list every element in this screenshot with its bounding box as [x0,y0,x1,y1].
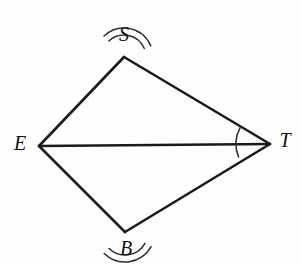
vertex-label-S: S [119,23,129,45]
angle-arc-T [236,128,240,157]
vertex-label-B: B [120,237,132,259]
angle-mark-T [236,128,240,157]
geometry-figure: S E T B [0,0,302,266]
edge-EB [39,146,125,232]
edge-ST [124,57,270,144]
vertex-labels: S E T B [13,23,293,259]
edge-BT [125,144,270,232]
figure-canvas: S E T B [0,0,302,266]
edge-SE [39,57,124,146]
vertex-label-T: T [279,129,292,151]
vertex-label-E: E [13,132,26,154]
